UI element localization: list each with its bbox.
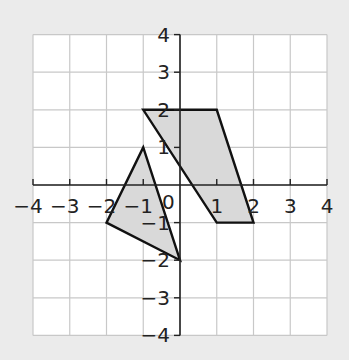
origin-label: 0 [162,190,175,214]
x-tick-label: −4 [13,194,42,218]
x-tick-label: 4 [321,194,334,218]
y-tick-label: −2 [141,248,170,272]
x-tick-label: 1 [210,194,223,218]
x-tick-label: 2 [247,194,260,218]
y-tick-label: 1 [157,135,170,159]
y-tick-label: −4 [141,323,170,347]
y-tick-label: −1 [141,211,170,235]
coordinate-grid-svg: −4−3−2−112344321−1−2−3−40 [0,0,349,360]
x-tick-label: −2 [87,194,116,218]
x-tick-label: −3 [50,194,79,218]
coordinate-plane: −4−3−2−112344321−1−2−3−40 [0,0,349,360]
y-tick-label: 4 [157,23,170,47]
y-tick-label: −3 [141,286,170,310]
x-tick-label: 3 [284,194,297,218]
y-tick-label: 2 [157,98,170,122]
y-tick-label: 3 [157,60,170,84]
